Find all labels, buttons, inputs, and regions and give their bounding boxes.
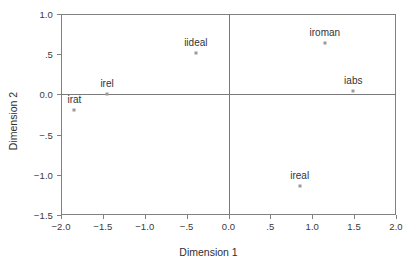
data-point-marker <box>73 108 76 111</box>
y-tick <box>57 135 61 136</box>
plot-area: 1.0.50.0−.5−1.0−1.5 −2.0−1.5−1.0−.50.0.5… <box>61 14 396 215</box>
y-tick-label: −1.5 <box>13 210 53 221</box>
x-tick-label: −2.0 <box>51 221 70 232</box>
data-point-label: iroman <box>310 27 341 38</box>
data-point-marker <box>106 93 109 96</box>
x-tick-label: 0.0 <box>222 221 236 232</box>
x-tick-label: −.5 <box>180 221 194 232</box>
x-tick-label: 1.5 <box>347 221 361 232</box>
y-tick <box>57 54 61 55</box>
scatter-plot-figure: Dimension 2 1.0.50.0−.5−1.0−1.5 −2.0−1.5… <box>0 0 417 260</box>
x-tick <box>61 215 62 219</box>
y-tick-label: .5 <box>13 49 53 60</box>
y-tick-label: −.5 <box>13 129 53 140</box>
data-point-label: irat <box>67 94 81 105</box>
reference-line-vertical <box>229 14 230 215</box>
y-tick-label: −1.0 <box>13 169 53 180</box>
data-point-marker <box>323 41 326 44</box>
x-axis-title: Dimension 1 <box>0 246 417 258</box>
x-tick-label: −1.0 <box>135 221 154 232</box>
y-tick-label: 1.0 <box>13 9 53 20</box>
data-point-label: irel <box>100 78 113 89</box>
y-tick-label: 0.0 <box>13 89 53 100</box>
data-point-marker <box>194 52 197 55</box>
plot-frame-right <box>395 14 396 215</box>
x-tick <box>354 215 355 219</box>
x-tick <box>396 215 397 219</box>
plot-frame-left <box>61 14 62 215</box>
x-tick <box>187 215 188 219</box>
x-tick-label: −1.5 <box>93 221 112 232</box>
data-point-label: iabs <box>344 75 362 86</box>
data-point-label: iideal <box>184 37 207 48</box>
x-tick-label: 1.0 <box>305 221 319 232</box>
y-tick <box>57 175 61 176</box>
x-tick-label: 2.0 <box>389 221 403 232</box>
y-tick <box>57 14 61 15</box>
x-tick-label: .5 <box>266 221 274 232</box>
data-point-label: ireal <box>290 170 309 181</box>
y-axis-title-container: Dimension 2 <box>8 14 22 215</box>
data-point-marker <box>298 185 301 188</box>
y-tick <box>57 94 61 95</box>
data-point-marker <box>352 90 355 93</box>
x-tick <box>145 215 146 219</box>
x-tick <box>312 215 313 219</box>
x-tick <box>229 215 230 219</box>
x-tick <box>270 215 271 219</box>
x-tick <box>103 215 104 219</box>
